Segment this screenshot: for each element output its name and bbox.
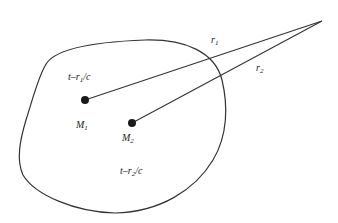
time-label-t2: t–r2/c [120,165,143,178]
line-r1 [85,21,322,100]
point-m2-label: M2 [121,132,134,145]
time-label-t1: t–r1/c [68,71,91,84]
point-m2-dot [128,119,136,127]
point-m1-dot [81,96,89,104]
line-r2-label: r2 [256,62,264,75]
diagram-canvas: t–r1/c M1 M2 t–r2/c r1 r2 [0,0,338,223]
source-region-outline [19,40,225,213]
line-r1-label: r1 [211,34,218,47]
line-r2 [132,21,322,123]
point-m1-label: M1 [75,119,88,132]
